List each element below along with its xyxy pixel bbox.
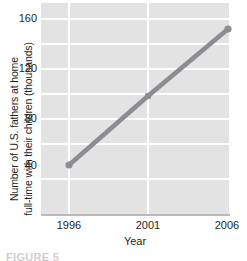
- series-stay-at-home-fathers: [41, 3, 229, 214]
- data-point-2006: [224, 25, 231, 32]
- data-point-1996: [65, 161, 72, 168]
- y-axis-title-line-1: Number of U.S. fathers at home: [7, 57, 21, 201]
- y-tick-label-120: 120: [19, 63, 41, 74]
- x-axis-title: Year: [41, 235, 229, 247]
- figure-line-chart: Number of U.S. fathers at home full-time…: [0, 0, 247, 261]
- x-tick-label-2006: 2006: [197, 219, 247, 231]
- plot-grid: 160 120 80 40: [41, 3, 229, 214]
- y-axis-title: Number of U.S. fathers at home full-time…: [4, 24, 38, 234]
- figure-caption: FIGURE 5: [6, 252, 59, 261]
- x-tick-label-1996: 1996: [39, 219, 99, 231]
- y-tick-label-80: 80: [25, 113, 41, 124]
- x-axis-line: [41, 214, 230, 216]
- y-tick-label-40: 40: [25, 160, 41, 171]
- x-tick-label-2001: 2001: [118, 219, 178, 231]
- plot-area: 160 120 80 40: [41, 3, 229, 214]
- y-tick-label-160: 160: [19, 13, 41, 24]
- data-point-2001: [145, 93, 151, 99]
